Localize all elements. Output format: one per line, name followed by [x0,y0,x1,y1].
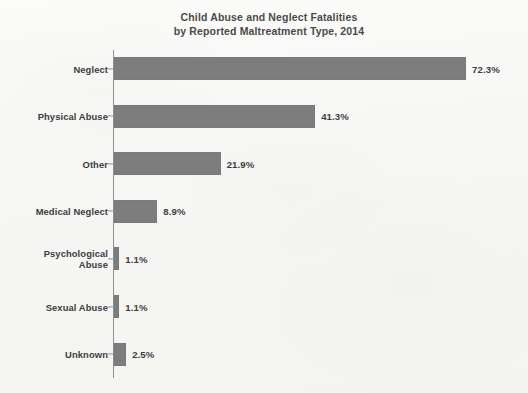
axis-tick [108,116,113,117]
bar-row: Neglect72.3% [0,57,528,80]
plot-area: Neglect72.3%Physical Abuse41.3%Other21.9… [0,0,528,393]
bar-row: Physical Abuse41.3% [0,105,528,128]
bar-value-label: 1.1% [125,253,147,264]
axis-tick [108,354,113,355]
bar-value-label: 21.9% [227,158,255,169]
bar [114,152,221,175]
bar-value-label: 8.9% [163,206,185,217]
category-label: Neglect [0,63,108,74]
category-label: Unknown [0,349,108,360]
bar [114,247,119,270]
category-label: Sexual Abuse [0,301,108,312]
bar-value-label: 72.3% [472,63,500,74]
bar [114,200,157,223]
bar-value-label: 1.1% [125,301,147,312]
bar-row: Other21.9% [0,152,528,175]
bar-value-label: 41.3% [321,111,349,122]
bar-row: Medical Neglect8.9% [0,200,528,223]
bar [114,105,315,128]
axis-tick [108,211,113,212]
category-label: Physical Abuse [0,111,108,122]
bar-value-label: 2.5% [132,349,154,360]
category-label: Other [0,158,108,169]
category-label: Medical Neglect [0,206,108,217]
axis-tick [108,306,113,307]
axis-tick [108,258,113,259]
bar [114,57,466,80]
axis-tick [108,68,113,69]
bar-row: Psychological Abuse1.1% [0,247,528,270]
bar-row: Unknown2.5% [0,343,528,366]
bar [114,343,126,366]
bar [114,295,119,318]
bar-row: Sexual Abuse1.1% [0,295,528,318]
category-label: Psychological Abuse [0,248,108,270]
axis-tick [108,163,113,164]
bar-chart: Child Abuse and Neglect Fatalities by Re… [0,0,528,393]
